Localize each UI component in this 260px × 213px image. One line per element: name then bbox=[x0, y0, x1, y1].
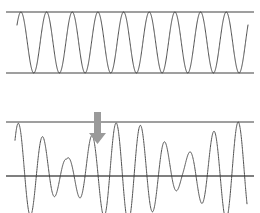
figure-root bbox=[0, 0, 260, 213]
waveform-figure bbox=[0, 0, 260, 213]
